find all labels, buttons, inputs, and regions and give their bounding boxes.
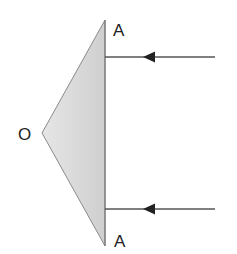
label-vertex-top: A [113,21,125,40]
prism-ray-diagram: A A O [0,0,237,254]
arrowhead-left-icon [143,52,155,63]
prism-triangle [42,20,105,246]
label-vertex-left: O [18,125,31,144]
arrowhead-left-icon [143,204,155,215]
lower-incident-ray [105,204,215,215]
upper-incident-ray [105,52,215,63]
label-vertex-bottom: A [114,232,126,251]
